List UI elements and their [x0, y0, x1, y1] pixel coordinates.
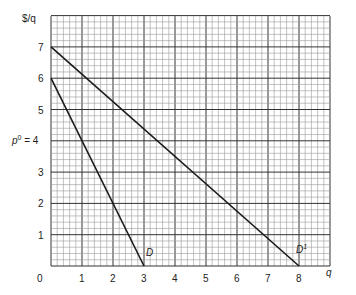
x-tick-label: 2: [110, 273, 116, 284]
chart-grid: [51, 16, 330, 266]
x-tick-label: 4: [172, 273, 178, 284]
x-tick-label: 5: [203, 273, 209, 284]
demand-chart: 12345678123567 $/q q 0 p0 = 4 D D1: [0, 0, 356, 295]
x-axis-label: q: [326, 267, 332, 278]
x-tick-label: 7: [265, 273, 271, 284]
y-tick-label: 6: [38, 73, 44, 84]
y-tick-label: 3: [38, 167, 44, 178]
x-tick-label: 1: [79, 273, 85, 284]
y-tick-label: 7: [38, 42, 44, 53]
x-tick-label: 8: [296, 273, 302, 284]
curve-d-label: D: [146, 247, 153, 258]
x-tick-label: 6: [234, 273, 240, 284]
y-tick-label: 1: [38, 230, 44, 241]
x-tick-label: 3: [141, 273, 147, 284]
y-tick-label: 2: [38, 198, 44, 209]
y-tick-label: 5: [38, 105, 44, 116]
origin-label: 0: [37, 273, 43, 284]
p0-label: p0 = 4: [11, 134, 39, 146]
y-axis-label: $/q: [22, 13, 36, 24]
